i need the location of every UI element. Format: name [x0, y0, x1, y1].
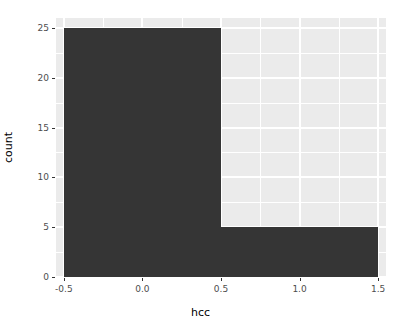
plot-panel [56, 18, 386, 277]
y-tick-mark [52, 277, 55, 278]
y-tick-mark [52, 177, 55, 178]
histogram-plot: -0.50.00.51.01.5 0510152025 hcc count [0, 0, 401, 336]
x-axis-title: hcc [0, 306, 401, 319]
y-tick-label: 10 [16, 172, 49, 182]
x-tick-label: 0.0 [135, 284, 149, 294]
x-tick-label: -0.5 [55, 284, 73, 294]
x-tick-label: 1.5 [371, 284, 385, 294]
y-tick-mark [52, 78, 55, 79]
y-tick-mark [52, 227, 55, 228]
x-tick-mark [64, 278, 65, 281]
y-tick-label: 0 [16, 272, 49, 282]
x-tick-mark [300, 278, 301, 281]
histogram-bar [221, 227, 378, 277]
x-tick-mark [221, 278, 222, 281]
y-tick-label: 20 [16, 73, 49, 83]
y-tick-label: 25 [16, 23, 49, 33]
y-tick-mark [52, 28, 55, 29]
y-tick-mark [52, 128, 55, 129]
y-tick-label: 15 [16, 123, 49, 133]
x-tick-mark [142, 278, 143, 281]
x-tick-mark [378, 278, 379, 281]
y-axis-title: count [2, 118, 15, 178]
histogram-bar [64, 28, 221, 277]
x-tick-label: 1.0 [292, 284, 306, 294]
x-tick-label: 0.5 [214, 284, 228, 294]
y-tick-label: 5 [16, 222, 49, 232]
